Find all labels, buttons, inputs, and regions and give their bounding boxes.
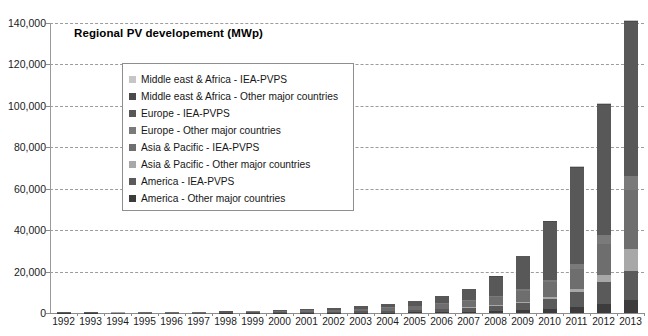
bar — [354, 306, 368, 313]
bar-segment — [543, 309, 557, 313]
x-axis-tick-labels: 1992199319941995199619971998199920002001… — [50, 316, 644, 334]
x-axis-tick-label: 2012 — [590, 316, 617, 327]
bar — [219, 311, 233, 313]
x-axis-tick-label: 1995 — [131, 316, 158, 327]
bar — [543, 221, 557, 313]
legend-item[interactable]: Asia & Pacific - IEA-PVPS — [129, 139, 347, 156]
bar — [381, 304, 395, 313]
x-axis-tick-mark — [536, 313, 537, 316]
x-axis-tick-label: 2011 — [563, 316, 590, 327]
x-axis-tick-label: 2005 — [401, 316, 428, 327]
legend-item-label: Middle east & Africa - IEA-PVPS — [141, 74, 287, 85]
x-axis-tick-mark — [563, 313, 564, 316]
legend-swatch-icon — [129, 93, 136, 100]
bar-segment — [543, 282, 557, 296]
x-axis-tick-label: 2006 — [428, 316, 455, 327]
x-axis-tick-label: 1999 — [239, 316, 266, 327]
bar-segment — [489, 297, 503, 305]
legend-item-label: Asia & Pacific - Other major countries — [141, 159, 310, 170]
bar — [273, 310, 287, 313]
x-axis-tick-mark — [590, 313, 591, 316]
y-axis-tick-label: 80,000 — [0, 141, 46, 153]
bar — [165, 312, 179, 313]
x-axis-tick-mark — [185, 313, 186, 316]
legend-swatch-icon — [129, 127, 136, 134]
bar-segment — [489, 277, 503, 296]
bar-segment — [597, 282, 611, 304]
bar-segment — [408, 312, 422, 313]
chart-title: Regional PV developement (MWp) — [74, 27, 263, 39]
legend-item-label: America - IEA-PVPS — [141, 176, 234, 187]
bar — [84, 312, 98, 313]
x-axis-tick-mark — [77, 313, 78, 316]
x-axis-tick-mark — [455, 313, 456, 316]
bar — [489, 276, 503, 313]
legend-item[interactable]: Middle east & Africa - IEA-PVPS — [129, 71, 347, 88]
bar-segment — [624, 271, 638, 301]
chart-container: 140,000120,000100,00080,00060,00040,0002… — [0, 0, 648, 336]
bar-segment — [516, 291, 530, 302]
x-axis-tick-label: 1993 — [77, 316, 104, 327]
bar-segment — [624, 176, 638, 190]
bar — [57, 312, 71, 313]
x-axis-tick-mark — [239, 313, 240, 316]
x-axis-tick-label: 2010 — [536, 316, 563, 327]
legend-item[interactable]: Europe - Other major countries — [129, 122, 347, 139]
bar-segment — [624, 190, 638, 249]
bar-segment — [624, 300, 638, 313]
x-axis-tick-label: 2007 — [455, 316, 482, 327]
y-axis-tick-label: 140,000 — [0, 17, 46, 29]
legend-item[interactable]: Middle east & Africa - Other major count… — [129, 88, 347, 105]
x-axis-tick-label: 2008 — [482, 316, 509, 327]
bar-segment — [435, 312, 449, 313]
bar — [408, 301, 422, 313]
legend-swatch-icon — [129, 195, 136, 202]
legend-swatch-icon — [129, 110, 136, 117]
x-axis-tick-mark — [131, 313, 132, 316]
x-axis-tick-mark — [158, 313, 159, 316]
y-axis-tick-label: 100,000 — [0, 100, 46, 112]
bar — [300, 309, 314, 313]
x-axis-tick-label: 1997 — [185, 316, 212, 327]
bar-segment — [543, 299, 557, 310]
x-axis-tick-mark — [212, 313, 213, 316]
bar — [624, 20, 638, 313]
bar-segment — [597, 304, 611, 313]
chart-legend: Middle east & Africa - IEA-PVPSMiddle ea… — [122, 63, 354, 211]
legend-item-label: Middle east & Africa - Other major count… — [141, 91, 338, 102]
bar-segment — [570, 292, 584, 307]
x-axis-tick-mark — [482, 313, 483, 316]
legend-item[interactable]: America - Other major countries — [129, 190, 347, 207]
bar — [516, 256, 530, 313]
bar-segment — [597, 105, 611, 235]
legend-swatch-icon — [129, 144, 136, 151]
x-axis-tick-label: 1996 — [158, 316, 185, 327]
bar-segment — [462, 312, 476, 313]
legend-item-label: Asia & Pacific - IEA-PVPS — [141, 142, 259, 153]
x-axis-tick-mark — [347, 313, 348, 316]
x-axis-tick-mark — [293, 313, 294, 316]
x-axis-tick-mark — [401, 313, 402, 316]
x-axis-tick-label: 2003 — [347, 316, 374, 327]
legend-item[interactable]: America - IEA-PVPS — [129, 173, 347, 190]
legend-item[interactable]: Europe - IEA-PVPS — [129, 105, 347, 122]
bar — [111, 312, 125, 313]
legend-swatch-icon — [129, 178, 136, 185]
x-axis-tick-mark — [509, 313, 510, 316]
legend-swatch-icon — [129, 161, 136, 168]
bar-segment — [435, 296, 449, 303]
bar — [435, 296, 449, 313]
bar-segment — [516, 310, 530, 313]
y-axis-tick-label: 120,000 — [0, 58, 46, 70]
x-axis-tick-label: 2009 — [509, 316, 536, 327]
bar — [327, 308, 341, 313]
legend-item[interactable]: Asia & Pacific - Other major countries — [129, 156, 347, 173]
bar-segment — [489, 311, 503, 313]
x-axis-tick-mark — [617, 313, 618, 316]
x-axis-tick-label: 1998 — [212, 316, 239, 327]
x-axis-tick-mark — [374, 313, 375, 316]
bar-segment — [516, 256, 530, 289]
x-axis-tick-label: 2001 — [293, 316, 320, 327]
x-axis-tick-mark — [644, 313, 645, 316]
bar — [462, 289, 476, 313]
